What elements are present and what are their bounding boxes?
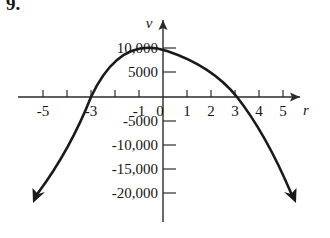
x-tick-label-3: 3: [231, 103, 239, 119]
x-axis: [18, 93, 300, 102]
y-tick-label-neg5000: -5000: [123, 113, 158, 129]
y-tick-label-neg20000: -20,000: [112, 185, 158, 201]
figure-container: 9.: [0, 0, 330, 238]
y-axis-label: v: [146, 15, 153, 31]
x-axis-label: r: [303, 102, 309, 118]
y-tick-label-5000: 5000: [128, 64, 158, 80]
x-tick-label-5: 5: [279, 103, 287, 119]
x-tick-label-4: 4: [255, 103, 263, 119]
x-tick-label-neg5: -5: [37, 103, 50, 119]
y-tick-label-neg15000: -15,000: [112, 161, 158, 177]
y-tick-label-neg10000: -10,000: [112, 137, 158, 153]
x-tick-label-2: 2: [207, 103, 215, 119]
parabola-curve: [33, 48, 297, 203]
y-axis-ticks: [163, 48, 176, 193]
x-tick-label-1: 1: [183, 103, 191, 119]
parabola-plot: -5 -3 -1 0 1 2 3 4 5 10,000 5000 -5000 -…: [0, 0, 330, 238]
